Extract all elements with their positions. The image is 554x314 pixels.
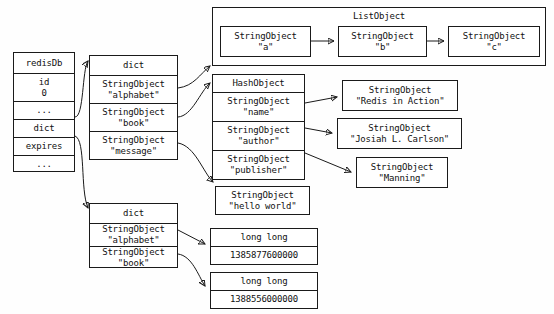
hash-value-publisher: StringObject "Manning" [356, 157, 448, 188]
expire-value-book-type: long long [211, 273, 317, 290]
arrow-expire-alphabet [178, 230, 205, 244]
list-node-b: StringObject "b" [338, 26, 427, 57]
arrow-expire-book [178, 254, 205, 286]
arrow-hash-author-value [305, 128, 332, 133]
expires-dict-key-book: StringObject "book" [90, 246, 177, 269]
redisdb-row-dict: dict [14, 119, 74, 137]
redisdb-row-id: id 0 [14, 73, 74, 101]
hash-value-author-cell: StringObject "Josiah L. Carlson" [338, 119, 461, 148]
main-dict-table: dict StringObject "alphabet" StringObjec… [89, 55, 178, 160]
arrow-alphabet-list [178, 66, 210, 88]
message-value-box: StringObject "hello world" [215, 186, 310, 215]
message-value-cell: StringObject "hello world" [216, 187, 309, 214]
expire-value-alphabet-number: 1385877600000 [211, 246, 317, 264]
hash-object-table: HashObject StringObject "name" StringObj… [212, 74, 305, 180]
expires-dict-table: dict StringObject "alphabet" StringObjec… [89, 203, 178, 268]
list-node-a: StringObject "a" [220, 26, 311, 57]
list-node-c: StringObject "c" [448, 26, 540, 57]
expire-value-alphabet-type: long long [211, 229, 317, 246]
list-node-c-cell: StringObject "c" [449, 27, 539, 56]
expires-dict-header: dict [90, 204, 177, 223]
hash-object-header: HashObject [213, 75, 304, 92]
hash-value-publisher-cell: StringObject "Manning" [357, 158, 447, 187]
redisdb-struct: redisDb id 0 ... dict expires ... [13, 52, 75, 172]
main-dict-header: dict [90, 56, 177, 75]
arrow-book-hash [178, 83, 210, 117]
hash-field-name: StringObject "name" [213, 92, 304, 121]
expires-dict-key-alphabet: StringObject "alphabet" [90, 223, 177, 246]
expire-value-book: long long 1388556000000 [210, 272, 318, 309]
diagram-canvas: redisDb id 0 ... dict expires ... dict S… [0, 0, 554, 314]
expire-value-book-number: 1388556000000 [211, 290, 317, 308]
hash-field-author: StringObject "author" [213, 121, 304, 150]
list-object-title: ListObject [213, 11, 545, 22]
main-dict-key-alphabet: StringObject "alphabet" [90, 75, 177, 103]
main-dict-key-book: StringObject "book" [90, 103, 177, 131]
arrow-message-hello [178, 143, 213, 182]
arrow-hash-name-value [305, 97, 337, 103]
list-node-a-cell: StringObject "a" [221, 27, 310, 56]
hash-value-title-cell: StringObject "Redis in Action" [343, 81, 457, 110]
redisdb-row-expires: expires [14, 137, 74, 155]
hash-value-author: StringObject "Josiah L. Carlson" [337, 118, 462, 149]
arrow-db-dict [75, 61, 88, 117]
main-dict-key-message: StringObject "message" [90, 131, 177, 159]
hash-value-title: StringObject "Redis in Action" [342, 80, 458, 111]
list-node-b-cell: StringObject "b" [339, 27, 426, 56]
redisdb-row-ellipsis-2: ... [14, 155, 74, 173]
expire-value-alphabet: long long 1385877600000 [210, 228, 318, 265]
arrow-db-expires [75, 136, 88, 208]
hash-field-publisher: StringObject "publisher" [213, 150, 304, 179]
redisdb-header: redisDb [14, 53, 74, 73]
redisdb-row-ellipsis-1: ... [14, 101, 74, 119]
arrow-hash-publisher-value [305, 153, 351, 172]
